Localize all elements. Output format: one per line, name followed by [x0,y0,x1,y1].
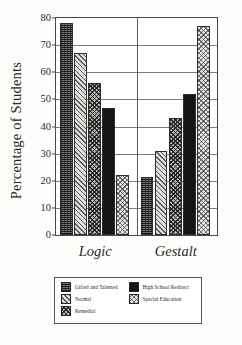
y-tick-mark [52,72,56,73]
y-tick-label: 50 [41,94,52,105]
legend-item-special-education: Special Education [129,294,197,304]
y-tick-label: 30 [41,148,52,159]
legend-item-gifted-and-talented: Gifted and Talented [61,282,129,292]
y-axis-title: Percentage of Students [8,31,25,231]
bar-gestalt-special-education [197,26,210,235]
y-tick-label: 0 [46,229,51,240]
bar-logic-remedial [88,83,101,235]
plot-area: 01020304050607080 [55,17,218,236]
y-tick-mark [52,18,56,19]
bar-gestalt-remedial [169,118,182,235]
bar-logic-gifted-and-talented [60,23,73,235]
y-tick-label: 10 [41,202,52,213]
x-axis-label-gestalt: Gestalt [155,243,197,260]
y-tick-mark [52,180,56,181]
legend-label-normal: Normal [75,295,91,303]
y-tick-label: 20 [41,175,52,186]
y-tick-label: 70 [41,39,52,50]
legend-row: Gifted and Talented High School Redirect [61,282,196,294]
legend-swatch-special-education [129,294,139,304]
legend-item-remedial: Remedial [61,306,129,316]
y-tick-mark [52,45,56,46]
y-tick-mark [52,153,56,154]
group-separator [137,18,138,235]
y-tick-mark [52,126,56,127]
y-tick-label: 80 [41,12,52,23]
chart-legend: Gifted and Talented High School Redirect… [54,277,202,324]
bar-chart-figure: Percentage of Students 01020304050607080… [0,0,242,345]
bar-logic-high-school-redirect [102,108,115,235]
legend-label-high-school-redirect: High School Redirect [143,283,190,291]
y-tick-label: 40 [41,121,52,132]
legend-row: Remedial [61,306,196,318]
legend-swatch-gifted-and-talented [61,282,71,292]
bar-logic-normal [74,53,87,235]
legend-label-gifted-and-talented: Gifted and Talented [75,283,118,291]
bar-logic-special-education [116,175,129,235]
legend-swatch-normal [61,294,71,304]
bar-gestalt-gifted-and-talented [141,177,154,235]
legend-label-remedial: Remedial [75,307,95,315]
x-axis-label-logic: Logic [79,243,112,260]
bar-gestalt-normal [155,151,168,235]
legend-swatch-high-school-redirect [129,282,139,292]
y-tick-label: 60 [41,67,52,78]
y-tick-mark [52,99,56,100]
legend-label-special-education: Special Education [143,295,182,303]
bar-gestalt-high-school-redirect [183,94,196,235]
y-tick-mark [52,235,56,236]
legend-item-normal: Normal [61,294,129,304]
legend-row: Normal Special Education [61,294,196,306]
legend-item-high-school-redirect: High School Redirect [129,282,197,292]
legend-swatch-remedial [61,306,71,316]
y-tick-mark [52,207,56,208]
